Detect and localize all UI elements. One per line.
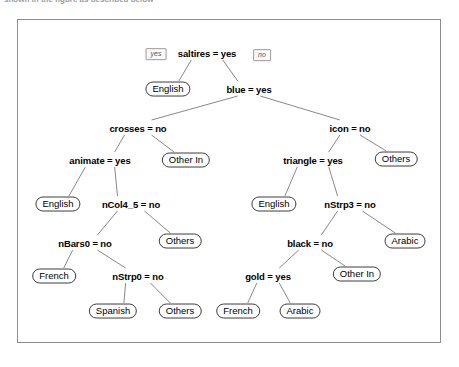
- tree-edge: [97, 250, 125, 268]
- tree-edge: [321, 250, 345, 266]
- tree-edge: [260, 96, 340, 120]
- split-node-nbars0-no: nBars0 = no: [58, 238, 112, 249]
- tree-edge: [279, 250, 299, 268]
- split-node-gold-yes: gold = yes: [245, 271, 291, 282]
- tree-edge: [279, 283, 290, 303]
- tree-edge: [152, 135, 175, 152]
- tree-edge: [321, 211, 337, 235]
- tree-edge: [248, 283, 257, 303]
- tree-edge: [115, 135, 125, 152]
- leaf-node-other-in: Other In: [162, 153, 210, 168]
- tree-edge: [223, 60, 238, 81]
- tree-edge: [150, 283, 170, 303]
- tree-edge: [360, 135, 386, 151]
- leaf-node-french: French: [216, 304, 260, 319]
- tree-edge: [145, 211, 171, 233]
- leaf-node-spanish: Spanish: [89, 304, 137, 319]
- split-node-ncol4-5-no: nCol4_5 = no: [102, 199, 160, 210]
- leaf-node-english: English: [145, 82, 190, 97]
- leaf-node-other-in: Other In: [333, 267, 381, 282]
- split-node-triangle-yes: triangle = yes: [283, 155, 343, 166]
- no-branch-label: no: [253, 49, 271, 61]
- tree-edge: [362, 211, 395, 233]
- tree-edge: [69, 167, 86, 196]
- leaf-node-others: Others: [375, 152, 418, 167]
- leaf-node-others: Others: [159, 234, 202, 249]
- leaf-node-french: French: [32, 269, 76, 284]
- split-node-saltires-yes: saltires = yes: [178, 48, 237, 59]
- split-node-blue-yes: blue = yes: [226, 84, 271, 95]
- tree-edge: [115, 167, 118, 196]
- leaf-node-arabic: Arabic: [280, 304, 321, 319]
- leaf-node-others: Others: [159, 304, 202, 319]
- tree-edge: [64, 250, 73, 268]
- tree-edge: [285, 167, 297, 196]
- split-node-icon-no: icon = no: [329, 123, 370, 134]
- leaf-node-arabic: Arabic: [385, 234, 426, 249]
- split-node-animate-yes: animate = yes: [69, 155, 130, 166]
- split-node-nstrp0-no: nStrp0 = no: [112, 271, 163, 282]
- tree-edge: [329, 135, 340, 152]
- split-node-black-no: black = no: [287, 238, 333, 249]
- tree-edge: [329, 167, 338, 196]
- split-node-nstrp3-no: nStrp3 = no: [324, 199, 375, 210]
- leaf-node-english: English: [251, 197, 296, 212]
- tree-edge: [124, 283, 126, 303]
- tree-edge: [97, 211, 117, 235]
- split-node-crosses-no: crosses = no: [109, 123, 166, 134]
- leaf-node-english: English: [35, 197, 80, 212]
- yes-branch-label: yes: [146, 48, 167, 60]
- tree-edge: [179, 60, 191, 81]
- tree-edge: [152, 96, 238, 120]
